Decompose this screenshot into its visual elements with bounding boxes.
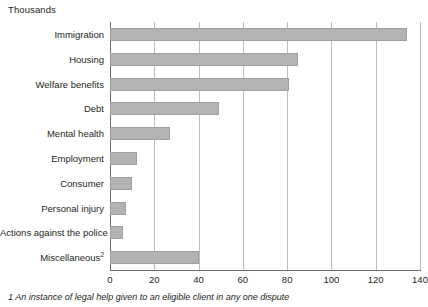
bar	[110, 78, 289, 91]
x-axis-tick-labels: 020406080100120140	[0, 274, 425, 288]
bar	[110, 177, 132, 190]
category-label: Actions against the police	[0, 227, 104, 238]
category-label: Mental health	[0, 128, 104, 139]
bar-row	[110, 220, 420, 245]
bar	[110, 28, 407, 41]
category-label: Welfare benefits	[0, 79, 104, 90]
category-label: Immigration	[0, 29, 104, 40]
bar-row	[110, 22, 420, 47]
plot-area	[110, 22, 420, 270]
bar-row	[110, 121, 420, 146]
x-tick-label: 40	[193, 274, 204, 285]
bar-row	[110, 245, 420, 270]
bar	[110, 53, 298, 66]
x-axis-baseline	[110, 270, 421, 271]
bars-layer	[110, 22, 420, 270]
gridline-140	[420, 22, 421, 270]
category-label: Miscellaneous2	[0, 252, 104, 263]
bar	[110, 226, 123, 239]
x-tick-label: 0	[107, 274, 112, 285]
x-tick-label: 60	[238, 274, 249, 285]
bar-row	[110, 146, 420, 171]
bar	[110, 127, 170, 140]
category-label-superscript: 2	[100, 251, 104, 258]
bar	[110, 202, 126, 215]
bar	[110, 102, 219, 115]
category-label: Employment	[0, 153, 104, 164]
category-label: Personal injury	[0, 203, 104, 214]
category-label: Consumer	[0, 178, 104, 189]
x-tick-label: 100	[323, 274, 339, 285]
x-tick-label: 80	[282, 274, 293, 285]
category-label: Housing	[0, 54, 104, 65]
x-tick-label: 140	[412, 274, 428, 285]
bar-row	[110, 96, 420, 121]
category-label: Debt	[0, 103, 104, 114]
chart-unit-label: Thousands	[8, 4, 56, 15]
bar-row	[110, 171, 420, 196]
chart-footnote: 1 An instance of legal help given to an …	[8, 292, 289, 302]
x-tick-label: 120	[368, 274, 384, 285]
bar-row	[110, 72, 420, 97]
bar-row	[110, 47, 420, 72]
bar	[110, 251, 199, 264]
category-axis-labels: ImmigrationHousingWelfare benefitsDebtMe…	[0, 22, 104, 270]
bar-row	[110, 196, 420, 221]
bar	[110, 152, 137, 165]
x-tick-label: 20	[149, 274, 160, 285]
